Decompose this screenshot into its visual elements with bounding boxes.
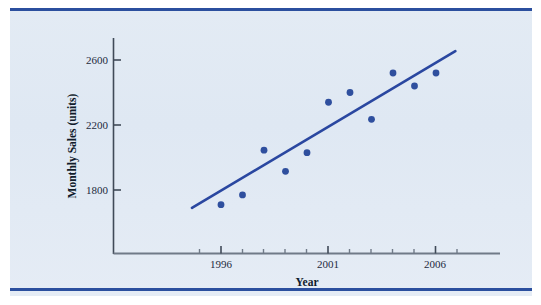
data-point [347, 89, 354, 96]
data-point [261, 147, 268, 154]
y-tick-label-2200: 2200 [86, 119, 109, 131]
data-point [282, 168, 289, 175]
x-axis-major-ticks [221, 246, 436, 254]
data-point-group [218, 70, 440, 208]
y-axis-title: Monthly Sales (units) [66, 93, 79, 198]
scatter-chart: 2600 2200 1800 [0, 0, 541, 305]
data-point [433, 70, 440, 77]
data-point [325, 99, 332, 106]
data-point [218, 201, 225, 208]
data-point [304, 149, 311, 156]
x-tick-label-1996: 1996 [210, 258, 233, 270]
x-axis-title: Year [296, 276, 319, 288]
data-point [411, 83, 418, 90]
y-tick-label-1800: 1800 [86, 184, 109, 196]
data-point [239, 191, 246, 198]
figure-root: 2600 2200 1800 [0, 0, 541, 305]
y-axis-ticks [114, 60, 122, 190]
y-tick-label-2600: 2600 [86, 54, 109, 66]
x-tick-label-2006: 2006 [424, 258, 447, 270]
trendline [192, 51, 455, 208]
data-point [368, 116, 375, 123]
data-point [390, 70, 397, 77]
x-tick-label-2001: 2001 [317, 258, 339, 270]
chart-svg: 2600 2200 1800 [0, 0, 541, 305]
